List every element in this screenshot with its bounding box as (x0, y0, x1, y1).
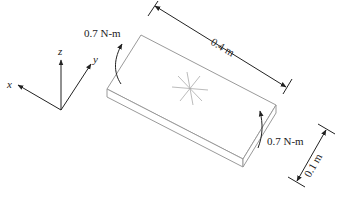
y-axis-label: y (92, 53, 98, 65)
width-label: 0.1 m (301, 151, 324, 179)
x-axis-label: x (6, 78, 12, 90)
plate-diagram: z y x 0.4 m 0.1 m 0.7 N-m 0.7 N-m (0, 0, 342, 199)
plate (107, 35, 276, 167)
torque-label-right: 0.7 N-m (267, 135, 304, 147)
diagram-canvas: z y x 0.4 m 0.1 m 0.7 N-m 0.7 N-m (0, 0, 342, 199)
coordinate-axes (18, 60, 91, 110)
z-axis-label: z (57, 45, 63, 57)
length-label: 0.4 m (209, 35, 237, 58)
torque-label-left: 0.7 N-m (84, 27, 121, 39)
